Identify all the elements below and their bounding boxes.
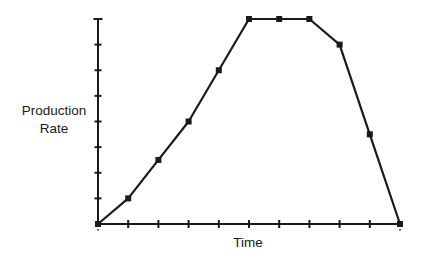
data-point-marker xyxy=(125,195,131,201)
data-point-marker xyxy=(306,16,312,22)
data-point-marker xyxy=(276,16,282,22)
y-axis-label: Production Rate xyxy=(12,102,96,138)
end-dot xyxy=(399,229,401,231)
axes xyxy=(94,19,401,231)
data-point-marker xyxy=(95,221,101,227)
data-point-marker xyxy=(246,16,252,22)
data-point-marker xyxy=(155,157,161,163)
data-point-marker xyxy=(367,131,373,137)
y-axis-label-line-1: Production xyxy=(12,102,96,120)
data-series xyxy=(95,16,403,227)
data-point-marker xyxy=(397,221,403,227)
data-point-marker xyxy=(337,42,343,48)
origin-dot xyxy=(97,229,99,231)
y-axis-label-line-2: Rate xyxy=(12,120,96,138)
x-axis-label: Time xyxy=(218,235,278,251)
production-rate-chart: Production Rate Time xyxy=(0,0,423,264)
data-point-marker xyxy=(216,67,222,73)
series-line xyxy=(98,19,400,224)
data-point-marker xyxy=(186,119,192,125)
